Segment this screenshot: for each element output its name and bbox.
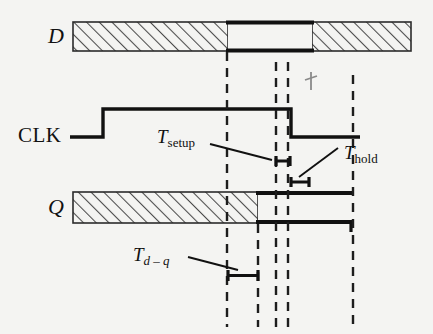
t-hold-label-base: T xyxy=(344,142,355,163)
signal-waveform-q xyxy=(73,192,353,232)
t-d-q-label-base: T xyxy=(133,244,144,265)
t-setup-label-sub: setup xyxy=(168,135,195,150)
signal-waveform-d xyxy=(73,22,411,51)
t-hold-label-sub: hold xyxy=(355,151,378,166)
t-setup-leader xyxy=(210,144,272,160)
edge-tick-mark xyxy=(305,72,317,90)
d-valid-window xyxy=(228,22,312,51)
signal-waveform-clk xyxy=(70,109,360,137)
t-hold-label: Thold xyxy=(344,143,378,165)
signal-label-q: Q xyxy=(48,196,64,218)
t-d-q-leader xyxy=(188,257,238,270)
t-setup-label: Tsetup xyxy=(157,127,195,149)
timing-diagram-figure: D CLK Q Tsetup Thold Td – q xyxy=(0,0,433,334)
t-d-q-bracket xyxy=(228,270,258,281)
q-valid-window xyxy=(258,192,353,223)
signal-label-clk: CLK xyxy=(18,125,62,146)
t-d-q-label-sub: d – q xyxy=(144,253,170,268)
timing-diagram-canvas xyxy=(0,0,433,334)
q-hatch-left xyxy=(73,192,258,223)
d-hatch-left xyxy=(73,22,228,51)
t-setup-label-base: T xyxy=(157,126,168,147)
clk-path xyxy=(70,109,360,137)
signal-label-d: D xyxy=(48,25,64,47)
d-hatch-right xyxy=(312,22,411,51)
t-hold-leader xyxy=(299,148,338,177)
guide-lines-group xyxy=(227,52,353,327)
t-hold-bracket xyxy=(291,177,309,187)
t-setup-marker xyxy=(210,144,290,166)
t-hold-marker xyxy=(291,148,338,187)
t-d-q-marker xyxy=(188,257,258,281)
t-d-q-label: Td – q xyxy=(133,245,170,267)
